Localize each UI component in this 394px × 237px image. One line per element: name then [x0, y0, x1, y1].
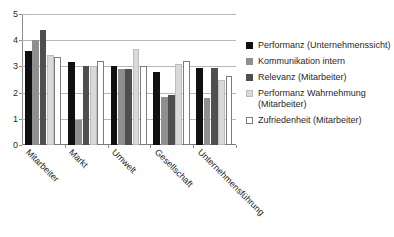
bar: [118, 69, 125, 145]
legend-label: Performanz (Unternehmenssicht): [258, 40, 391, 51]
plot-area: 012345: [0, 0, 244, 160]
bar: [183, 61, 190, 145]
y-tick-label: 5: [13, 10, 18, 19]
bar: [83, 66, 90, 145]
bar: [226, 76, 233, 145]
bar-group: [65, 14, 108, 145]
bar-group: [22, 14, 65, 145]
bar: [40, 30, 47, 145]
bar-groups: [22, 14, 236, 145]
bar: [32, 40, 39, 145]
legend-item: Performanz Wahrnehmung (Mitarbeiter): [246, 88, 394, 110]
legend-label: Kommunikation intern: [258, 56, 345, 67]
chart-legend: Performanz (Unternehmenssicht)Kommunikat…: [246, 40, 394, 131]
bar: [153, 72, 160, 145]
x-axis-labels: MitarbeiterMarktUmweltGesellschaftUntern…: [22, 147, 236, 237]
legend-item: Relevanz (Mitarbeiter): [246, 72, 394, 83]
x-axis-label: Gesellschaft: [153, 147, 195, 189]
bar: [47, 55, 54, 145]
bar: [97, 61, 104, 145]
legend-swatch-lightgrey-icon: [246, 90, 253, 97]
bar-group: [193, 14, 236, 145]
y-tick-label: 0: [13, 141, 18, 150]
legend-swatch-white-icon: [246, 117, 253, 124]
legend-label: Zufriedenheit (Mitarbeiter): [258, 115, 362, 126]
x-axis-label: Unternehmensführung: [196, 147, 266, 217]
legend-label: Performanz Wahrnehmung (Mitarbeiter): [258, 88, 394, 110]
y-tick-label: 4: [13, 36, 18, 45]
bar: [133, 49, 140, 145]
legend-item: Performanz (Unternehmenssicht): [246, 40, 394, 51]
legend-item: Kommunikation intern: [246, 56, 394, 67]
bar: [25, 51, 32, 145]
bar: [175, 64, 182, 145]
y-tick-label: 1: [13, 114, 18, 123]
bar-group: [150, 14, 193, 145]
bar: [196, 68, 203, 145]
legend-swatch-grey-icon: [246, 58, 253, 65]
legend-item: Zufriedenheit (Mitarbeiter): [246, 115, 394, 126]
y-axis: 012345: [0, 0, 20, 160]
bar: [68, 62, 75, 145]
bar: [54, 57, 61, 145]
legend-swatch-black-icon: [246, 42, 253, 49]
bar: [75, 120, 82, 145]
x-axis-label: Mitarbeiter: [24, 147, 61, 184]
y-tick-label: 2: [13, 88, 18, 97]
bar: [140, 66, 147, 145]
y-tick-mark: [19, 145, 22, 146]
legend-label: Relevanz (Mitarbeiter): [258, 72, 347, 83]
bar: [90, 66, 97, 145]
bar: [161, 97, 168, 145]
bar: [111, 66, 118, 145]
x-axis-label: Markt: [67, 147, 90, 170]
x-tick-mark: [236, 145, 237, 148]
legend-swatch-darkgrey-icon: [246, 74, 253, 81]
bar: [218, 80, 225, 146]
y-tick-label: 3: [13, 62, 18, 71]
bar: [211, 68, 218, 145]
bar: [204, 98, 211, 145]
bar: [168, 95, 175, 145]
bar-group: [108, 14, 151, 145]
bar-chart: 012345 MitarbeiterMarktUmweltGesellschaf…: [0, 0, 394, 237]
bar: [125, 69, 132, 145]
x-axis-label: Umwelt: [110, 147, 138, 175]
